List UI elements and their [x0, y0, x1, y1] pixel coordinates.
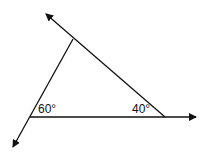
angle-label-60: 60° [38, 102, 56, 116]
triangle-diagram: 60° 40° [0, 0, 207, 163]
ray-lower-left [13, 39, 73, 147]
angle-label-40: 40° [132, 102, 150, 116]
